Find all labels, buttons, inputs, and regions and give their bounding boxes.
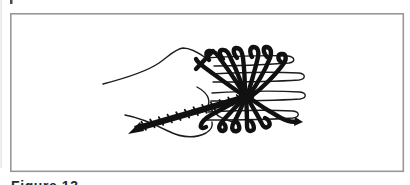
hand-weaving-illustration [0, 0, 410, 185]
figure-frame [11, 14, 404, 172]
figure-caption: Figure 13 [11, 178, 79, 185]
wound-threads [196, 47, 303, 131]
scanned-page: Figure 13 [0, 0, 410, 185]
scan-speck-artifact [10, 0, 13, 4]
thread-end-point [294, 117, 303, 126]
page-edge-artifact [1, 0, 2, 168]
